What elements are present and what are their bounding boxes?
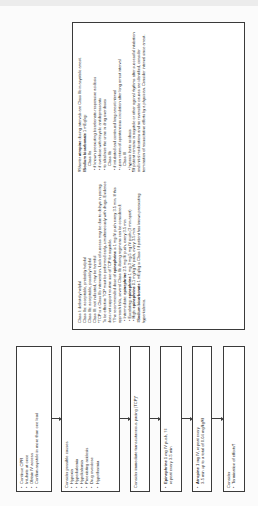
termination-list: Termination of efforts¶	[231, 350, 236, 488]
list-item-continued: 3-5 min up to a total of 0.04 mg/kg§‖	[200, 350, 205, 488]
atropine-list: Atropine 1 mg IV, repeat every 3-5 min u…	[195, 350, 205, 488]
flow-box-possible-causes: Consider possible causes Hypoxia Hyperka…	[61, 346, 120, 492]
scan-edge	[0, 0, 258, 6]
footnotes-right-column: §Shorter atropine dosing intervals are C…	[78, 29, 239, 172]
footnote-text: 1 mEq/kg:	[82, 114, 87, 133]
termination-footnote: ¶If patient remains in asystole or other…	[132, 29, 147, 172]
flow-box-atropine: Atropine 1 mg IV, repeat every 3-5 min u…	[192, 346, 212, 492]
arrow-down-icon	[120, 418, 129, 419]
footnotes-box: Class I: definitely helpful Class IIa: a…	[72, 22, 245, 330]
causes-list: Hypoxia Hyperkalemia Hypokalemia Preexis…	[69, 350, 100, 488]
arrow-down-icon	[150, 418, 159, 419]
arrow-down-icon	[212, 418, 222, 419]
list-item: Confirm asystole in more than one lead	[34, 350, 39, 488]
arrow-down-icon	[182, 418, 191, 419]
flow-box-epinephrine: Epinephrine 1 mg IV push, †‡ repeat ever…	[160, 346, 182, 492]
flow-box-termination: Consider Termination of efforts¶	[223, 346, 245, 492]
tcp-footnote: *TCP is a Class IIb intervention. Lack o…	[98, 180, 113, 323]
flow-box-pacing: Consider immediate transcutaneous pacing…	[130, 346, 150, 492]
epinephrine-list: Epinephrine 1 mg IV push, †‡ repeat ever…	[163, 350, 173, 488]
footnotes-left-column: Class I: definitely helpful Class IIa: a…	[78, 180, 239, 323]
arrow-down-icon	[52, 418, 60, 419]
list-item: Hypothermia	[95, 350, 100, 488]
bicarbonate-footnote: ‡Sodium bicarbonate 1 mEq/kg is Class I …	[137, 180, 147, 323]
footnote-mark: ‖	[82, 170, 87, 172]
initial-actions-list: Continue CPR Intubate at once Obtain IV …	[19, 350, 39, 488]
flow-box-initial-actions: Continue CPR Intubate at once Obtain IV …	[16, 346, 52, 492]
list-item: Termination of efforts¶	[231, 350, 236, 488]
pacing-text: Consider immediate transcutaneous pacing…	[133, 396, 138, 488]
list-item-continued: repeat every 3-5 min	[168, 350, 173, 488]
document-page: Continue CPR Intubate at once Obtain IV …	[0, 0, 258, 506]
